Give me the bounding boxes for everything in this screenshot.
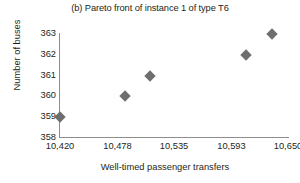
y-tick-label: 361: [24, 70, 56, 80]
chart-figure: (b) Pareto front of instance 1 of type T…: [0, 0, 300, 183]
y-tick-label: 363: [24, 28, 56, 38]
x-axis-label: Well-timed passenger transfers: [40, 162, 290, 172]
x-tick-label: 10,650: [258, 141, 300, 151]
plot-area: [60, 34, 288, 138]
y-axis-label: Number of buses: [12, 0, 22, 110]
y-tick-label: 359: [24, 111, 56, 121]
x-tick-label: 10,593: [201, 141, 261, 151]
x-tick-label: 10,478: [87, 141, 147, 151]
x-tick-label: 10,535: [144, 141, 204, 151]
y-axis-ticks: 358359360361362363: [22, 0, 56, 183]
x-tick-label: 10,420: [30, 141, 90, 151]
y-tick-label: 362: [24, 49, 56, 59]
y-tick-label: 360: [24, 90, 56, 100]
